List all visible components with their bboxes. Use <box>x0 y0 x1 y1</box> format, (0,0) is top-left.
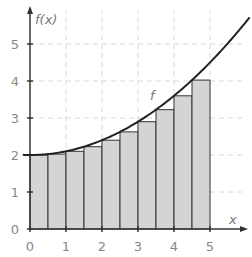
x-tick-label: 1 <box>62 239 70 254</box>
x-tick-label: 4 <box>170 239 178 254</box>
y-axis-label: f(x) <box>35 12 57 27</box>
x-axis-arrow-icon <box>240 226 248 232</box>
riemann-bar <box>156 110 174 229</box>
curve-label: f <box>150 88 157 103</box>
y-tick-label: 0 <box>11 222 19 237</box>
riemann-bar <box>48 154 66 229</box>
x-tick-label: 2 <box>98 239 106 254</box>
riemann-bar <box>66 151 84 229</box>
x-axis-label: x <box>228 212 237 227</box>
riemann-bars <box>30 80 210 229</box>
y-tick-label: 2 <box>11 148 19 163</box>
riemann-bar <box>84 147 102 229</box>
riemann-bar <box>102 140 120 229</box>
x-tick-label: 3 <box>134 239 142 254</box>
y-axis-arrow-icon <box>27 6 33 14</box>
y-tick-label: 4 <box>11 74 19 89</box>
riemann-bar <box>174 96 192 229</box>
y-tick-label: 3 <box>11 111 19 126</box>
riemann-sum-chart: 012345012345 f(x) x f <box>0 0 252 257</box>
riemann-bar <box>192 80 210 229</box>
y-tick-label: 1 <box>11 185 19 200</box>
x-tick-label: 5 <box>206 239 214 254</box>
x-tick-label: 0 <box>26 239 34 254</box>
riemann-bar <box>120 132 138 229</box>
y-tick-label: 5 <box>11 37 19 52</box>
riemann-bar <box>138 122 156 229</box>
